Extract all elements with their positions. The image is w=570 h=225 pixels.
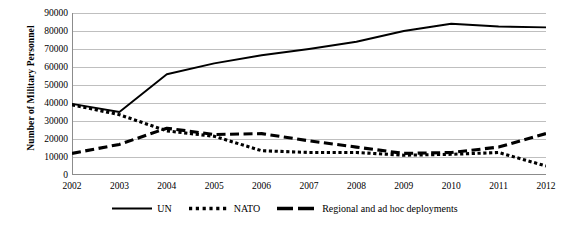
y-axis-tick-labels: 0100002000030000400005000060000700008000… (16, 7, 68, 181)
x-tick-label: 2008 (329, 180, 383, 192)
legend-item: UN (112, 203, 171, 214)
chart-plot-svg (72, 13, 546, 175)
legend-item: Regional and ad hoc deployments (277, 203, 458, 214)
y-tick-label: 70000 (16, 44, 68, 54)
y-tick-label: 90000 (16, 8, 68, 18)
legend-label: UN (157, 203, 171, 214)
chart-figure: Number of Military Personnel 01000020000… (0, 0, 570, 225)
x-tick-label: 2006 (235, 180, 289, 192)
x-tick-label: 2004 (140, 180, 194, 192)
x-tick-label: 2011 (472, 180, 526, 192)
y-tick-label: 20000 (16, 134, 68, 144)
x-tick-label: 2010 (424, 180, 478, 192)
x-tick-label: 2009 (377, 180, 431, 192)
y-tick-label: 60000 (16, 62, 68, 72)
y-tick-label: 0 (16, 170, 68, 180)
legend-label: Regional and ad hoc deployments (322, 203, 458, 214)
series-line-regional-and-ad-hoc-deployments (72, 128, 546, 153)
y-tick-label: 80000 (16, 26, 68, 36)
x-axis-tick-labels: 2002200320042005200620072008200920102011… (72, 180, 546, 194)
y-tick-label: 30000 (16, 116, 68, 126)
legend-item: NATO (189, 203, 260, 214)
data-series-layer (72, 24, 546, 166)
x-tick-label: 2012 (519, 180, 570, 192)
plot-area (72, 13, 546, 175)
legend-label: NATO (234, 203, 260, 214)
x-tick-label: 2002 (45, 180, 99, 192)
chart-legend: UNNATORegional and ad hoc deployments (0, 199, 570, 217)
y-tick-label: 10000 (16, 152, 68, 162)
y-tick-label: 50000 (16, 80, 68, 90)
x-tick-label: 2005 (187, 180, 241, 192)
solid-line-swatch (112, 203, 152, 214)
y-tick-label: 40000 (16, 98, 68, 108)
dashed-line-swatch (277, 203, 317, 214)
dotted-line-swatch (189, 203, 229, 214)
x-tick-label: 2003 (92, 180, 146, 192)
x-tick-label: 2007 (282, 180, 336, 192)
